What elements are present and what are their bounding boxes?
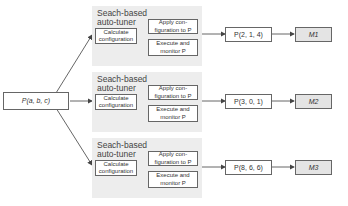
apply-line2: figuration to P: [154, 159, 191, 167]
calculate-configuration-box-3: Calculateconfiguration: [95, 160, 137, 176]
model-label: M2: [309, 98, 319, 106]
calc-line2: configuration: [99, 168, 133, 176]
calc-line1: Calculate: [99, 161, 133, 169]
apply-line1: Apply con-: [154, 151, 191, 159]
exec-line1: Execute and: [156, 172, 189, 180]
result-config-box-1: P(2, 1, 4): [225, 27, 272, 42]
result-config-box-2: P(3, 0, 1): [225, 94, 272, 109]
exec-line1: Execute and: [156, 40, 189, 48]
apply-configuration-box-1: Apply con-figuration to P: [148, 19, 198, 34]
tuner-title-1: Seach-based auto-tuner: [97, 9, 147, 27]
calc-line2: configuration: [99, 36, 133, 44]
tuner-title-line2: auto-tuner: [97, 18, 147, 27]
model-box-2: M2: [295, 94, 332, 109]
input-program-box: P(a, b, c): [3, 92, 69, 110]
calculate-configuration-box-1: Calculateconfiguration: [95, 28, 137, 44]
input-program-label: P(a, b, c): [22, 97, 50, 105]
tuner-title-3: Seach-based auto-tuner: [97, 141, 147, 159]
calc-line1: Calculate: [99, 29, 133, 37]
result-label: P(2, 1, 4): [234, 31, 263, 39]
exec-line2: monitor P: [156, 48, 189, 56]
exec-line2: monitor P: [156, 114, 189, 122]
result-label: P(8, 6, 6): [234, 164, 263, 172]
exec-line1: Execute and: [156, 106, 189, 114]
calc-line1: Calculate: [99, 95, 133, 103]
execute-monitor-box-2: Execute andmonitor P: [148, 105, 198, 122]
execute-monitor-box-1: Execute andmonitor P: [148, 39, 198, 56]
apply-configuration-box-3: Apply con-figuration to P: [148, 151, 198, 166]
model-label: M1: [309, 31, 319, 39]
calculate-configuration-box-2: Calculateconfiguration: [95, 94, 137, 110]
calc-line2: configuration: [99, 102, 133, 110]
model-label: M3: [309, 164, 319, 172]
execute-monitor-box-3: Execute andmonitor P: [148, 171, 198, 188]
apply-line1: Apply con-: [154, 19, 191, 27]
model-box-1: M1: [295, 27, 332, 42]
tuner-title-line2: auto-tuner: [97, 150, 147, 159]
result-config-box-3: P(8, 6, 6): [225, 160, 272, 175]
result-label: P(3, 0, 1): [234, 98, 263, 106]
apply-line2: figuration to P: [154, 93, 191, 101]
tuner-title-2: Seach-based auto-tuner: [97, 75, 147, 93]
model-box-3: M3: [295, 160, 332, 175]
apply-line1: Apply con-: [154, 85, 191, 93]
tuner-title-line2: auto-tuner: [97, 84, 147, 93]
apply-configuration-box-2: Apply con-figuration to P: [148, 85, 198, 100]
apply-line2: figuration to P: [154, 27, 191, 35]
exec-line2: monitor P: [156, 180, 189, 188]
